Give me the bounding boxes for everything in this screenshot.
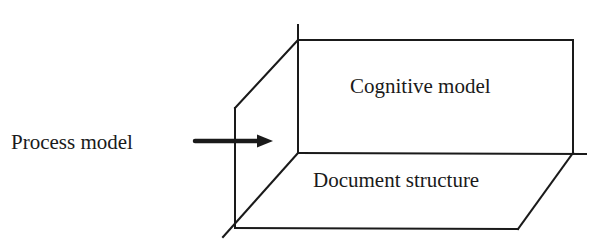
- arrow-head: [257, 135, 273, 148]
- floor-plane: [223, 153, 573, 237]
- floor-front-edge: [235, 228, 518, 229]
- process-model-label: Process model: [11, 130, 133, 154]
- side-plane: [235, 40, 298, 228]
- back-bottom-edge: [298, 153, 586, 154]
- document-structure-label: Document structure: [313, 168, 479, 192]
- three-plane-model-diagram: Process model Cognitive model Document s…: [0, 0, 607, 251]
- cognitive-model-label: Cognitive model: [350, 74, 491, 98]
- floor-right-diagonal: [518, 153, 573, 229]
- side-plane-top-edge: [235, 40, 298, 108]
